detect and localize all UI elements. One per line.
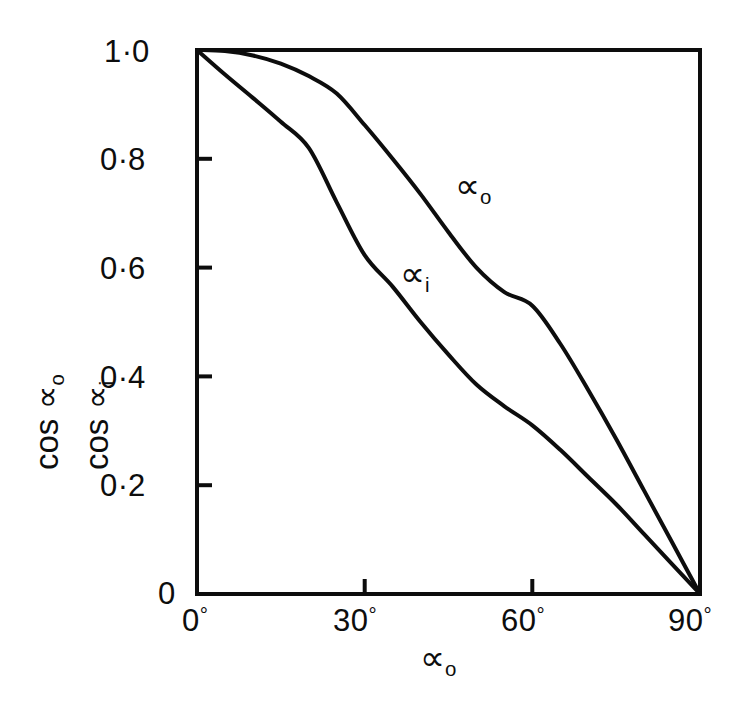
figure-canvas: 1·0 0·8 0·6 0·4 0·2 0 0° 30° 60° 90° cos… (0, 0, 743, 702)
x-tick-label-60deg: 60° (501, 605, 545, 636)
y-tick-label-1-0: 1·0 (104, 36, 150, 67)
x-tick-label-90deg: 90° (668, 605, 712, 636)
y-tick-label-0: 0 (158, 578, 176, 609)
x-axis-ticks (365, 579, 533, 594)
curve-label-alpha-i: ∝i (400, 256, 430, 295)
y-axis-title-cos-alpha-i: cos ∝i (80, 381, 117, 470)
curve-alpha-i (197, 50, 700, 594)
x-axis-title-alpha-o: ∝o (420, 640, 456, 679)
curve-label-alpha-o: ∝o (455, 168, 491, 207)
x-tick-label-30deg: 30° (333, 605, 377, 636)
x-tick-label-0deg: 0° (182, 605, 208, 636)
y-axis-ticks (197, 159, 212, 485)
y-axis-title-group: cos ∝o cos ∝i (22, 150, 142, 480)
y-axis-title-cos-alpha-o: cos ∝o (30, 374, 67, 470)
